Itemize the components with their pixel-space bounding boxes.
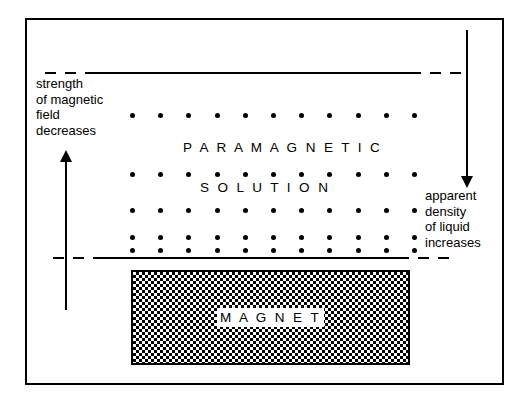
bottom-liquid-surface-line [53, 256, 453, 259]
arrow-down-icon [461, 176, 473, 188]
top-liquid-surface-line [45, 71, 465, 74]
top-line-dash-left [45, 72, 93, 74]
caption-field-strength: strength of magnetic field decreases [36, 76, 103, 138]
arrow-down-shaft [466, 30, 468, 178]
caption-apparent-density: apparent density of liquid increases [425, 188, 481, 250]
label-solution: S O L U T I O N [200, 180, 330, 195]
bottom-line-dash-left [53, 257, 101, 259]
label-paramagnetic: P A R A M A G N E T I C [183, 140, 382, 155]
top-line-solid [93, 72, 410, 74]
figure-canvas: P A R A M A G N E T I C S O L U T I O N … [0, 0, 530, 408]
top-line-dash-right [410, 72, 465, 74]
arrow-up-shaft [65, 158, 67, 310]
arrow-up-icon [60, 150, 72, 162]
bottom-line-solid [101, 257, 398, 259]
magnet-block: M A G N E T [131, 270, 410, 365]
label-magnet: M A G N E T [217, 308, 324, 327]
bottom-line-dash-right [398, 257, 453, 259]
